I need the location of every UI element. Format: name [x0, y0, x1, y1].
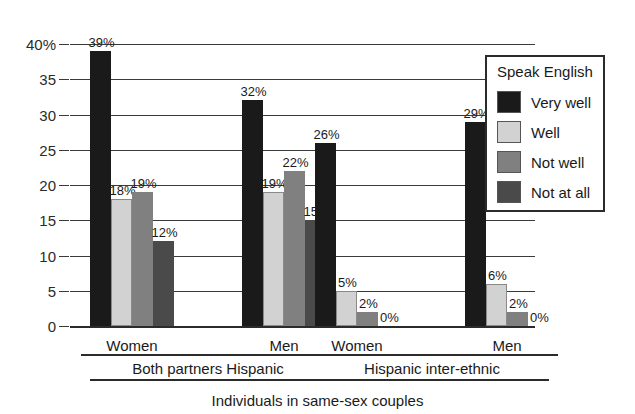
bar-value-label: 22%	[280, 156, 311, 169]
legend-item[interactable]: Well	[497, 117, 603, 147]
bar-value-label: 0%	[524, 311, 555, 324]
y-axis-tick-label: 20	[39, 178, 56, 193]
x-axis-group-rule	[306, 354, 558, 356]
y-axis-tick-label: 40%	[26, 37, 56, 52]
x-axis-group-label: Hispanic inter-ethnic	[306, 361, 558, 376]
y-axis-tick-mark	[59, 79, 69, 80]
legend-swatch-icon	[497, 91, 521, 113]
bar-value-label: 2%	[503, 297, 534, 310]
y-axis-tick-mark	[59, 256, 69, 257]
axis-baseline	[70, 326, 535, 328]
y-axis-tick-mark	[59, 326, 69, 327]
y-axis-tick-label: 5	[48, 284, 56, 299]
gridline	[70, 44, 535, 45]
y-axis-tick-label: 10	[39, 249, 56, 264]
legend-item-label: Very well	[531, 95, 591, 110]
bar	[242, 100, 263, 326]
bar-value-label: 39%	[86, 36, 117, 49]
x-axis-title: Individuals in same-sex couples	[0, 393, 635, 408]
bar-value-label: 26%	[311, 128, 342, 141]
chart-legend: Speak English Very wellWellNot wellNot a…	[485, 55, 605, 212]
y-axis-tick-label: 25	[39, 143, 56, 158]
legend-swatch-icon	[497, 151, 521, 173]
bar-value-label: 12%	[149, 226, 180, 239]
bar-value-label: 6%	[482, 269, 513, 282]
legend-title: Speak English	[497, 64, 603, 79]
y-axis-tick-label: 30	[39, 108, 56, 123]
legend-swatch-icon	[497, 121, 521, 143]
y-axis-tick-label: 0	[48, 319, 56, 334]
x-axis-category-label: Women	[72, 338, 192, 353]
bar	[263, 192, 284, 326]
x-axis-category-label: Women	[297, 338, 417, 353]
y-axis-tick-label: 15	[39, 213, 56, 228]
bar	[284, 171, 305, 326]
bar	[465, 122, 486, 326]
legend-item-label: Well	[531, 125, 560, 140]
x-axis-group-rule	[81, 354, 335, 356]
legend-swatch-icon	[497, 181, 521, 203]
bar-value-label: 0%	[374, 311, 405, 324]
x-axis-group-label: Both partners Hispanic	[81, 361, 335, 376]
bar-chart: 40%35302520151050 39%18%19%12%32%19%22%1…	[0, 0, 635, 414]
y-axis-tick-mark	[59, 150, 69, 151]
legend-item[interactable]: Very well	[497, 87, 603, 117]
legend-item-label: Not at all	[531, 185, 590, 200]
bar	[111, 199, 132, 326]
x-axis-overall-rule	[90, 379, 549, 381]
plot-area: 39%18%19%12%32%19%22%15%26%5%2%0%29%6%2%…	[70, 44, 535, 326]
bar	[132, 192, 153, 326]
bar	[153, 241, 174, 326]
x-axis-category-label: Men	[447, 338, 567, 353]
y-axis-tick-mark	[59, 44, 69, 45]
y-axis-tick-label: 35	[39, 72, 56, 87]
bar-value-label: 32%	[238, 85, 269, 98]
bar-value-label: 5%	[332, 276, 363, 289]
gridline	[70, 79, 535, 80]
bar	[315, 143, 336, 326]
legend-item-label: Not well	[531, 155, 584, 170]
y-axis-tick-mark	[59, 115, 69, 116]
legend-item[interactable]: Not at all	[497, 177, 603, 207]
legend-item[interactable]: Not well	[497, 147, 603, 177]
bar-value-label: 2%	[353, 297, 384, 310]
y-axis-tick-mark	[59, 220, 69, 221]
y-axis-tick-mark	[59, 291, 69, 292]
y-axis-tick-mark	[59, 185, 69, 186]
bar-value-label: 19%	[128, 177, 159, 190]
